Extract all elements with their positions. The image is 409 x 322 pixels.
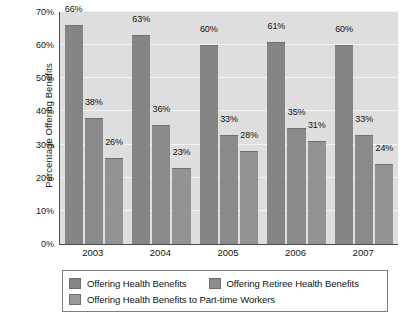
bar-value-label: 23%	[173, 147, 191, 157]
legend-swatch-icon-1	[209, 278, 221, 289]
x-axis-tick-label: 2003	[82, 247, 103, 258]
bar[interactable]	[105, 158, 123, 244]
legend-label-1: Offering Retiree Health Benefits	[227, 278, 359, 289]
bar-value-label: 33%	[220, 114, 238, 124]
y-axis-tick-label: 70%	[22, 7, 54, 17]
bar[interactable]	[308, 141, 326, 244]
bar-value-label: 60%	[335, 24, 353, 34]
bar-group: 60%33%24%	[330, 12, 398, 244]
bar[interactable]	[172, 168, 190, 244]
x-axis-tick-label: 2005	[217, 247, 238, 258]
bar-group: 60%33%28%	[195, 12, 263, 244]
bar-value-label: 33%	[355, 114, 373, 124]
y-axis-tick-label: 50%	[22, 73, 54, 83]
bar[interactable]	[287, 128, 305, 244]
bar-group: 66%38%26%	[60, 12, 128, 244]
plot-area: 66%38%26%63%36%23%60%33%28%61%35%31%60%3…	[59, 12, 398, 245]
bar[interactable]	[335, 45, 353, 244]
x-axis-tick-label: 2006	[285, 247, 306, 258]
bar-value-label: 61%	[268, 21, 286, 31]
bar-value-label: 28%	[240, 130, 258, 140]
legend-row-bottom: Offering Health Benefits to Part-time Wo…	[69, 291, 382, 307]
bar-value-label: 63%	[132, 14, 150, 24]
bar[interactable]	[220, 135, 238, 244]
bar-value-label: 38%	[85, 97, 103, 107]
bar[interactable]	[200, 45, 218, 244]
legend-label-2: Offering Health Benefits to Part-time Wo…	[87, 294, 275, 305]
bar-group: 61%35%31%	[263, 12, 331, 244]
y-axis-tick-label: 10%	[22, 206, 54, 216]
bar-value-label: 35%	[288, 107, 306, 117]
bar[interactable]	[85, 118, 103, 244]
y-axis-tick-label: 20%	[22, 173, 54, 183]
legend-swatch-icon-2	[69, 294, 81, 305]
y-axis-tick-label: 0%	[22, 239, 54, 249]
bar[interactable]	[355, 135, 373, 244]
bar[interactable]	[267, 42, 285, 244]
bar-group: 63%36%23%	[128, 12, 196, 244]
y-axis-tick-label: 40%	[22, 106, 54, 116]
bar-value-label: 31%	[308, 120, 326, 130]
y-axis-tick-labels: 0%10%20%30%40%50%60%70%	[22, 12, 54, 244]
bar-value-label: 36%	[153, 104, 171, 114]
bar-value-label: 60%	[200, 24, 218, 34]
legend-item-2[interactable]: Offering Health Benefits to Part-time Wo…	[69, 291, 275, 307]
bar[interactable]	[65, 25, 83, 244]
bar[interactable]	[240, 151, 258, 244]
legend-item-0[interactable]: Offering Health Benefits	[69, 275, 187, 291]
legend-label-0: Offering Health Benefits	[87, 278, 187, 289]
y-axis-tick-label: 60%	[22, 40, 54, 50]
bar-chart-figure: Percentage Offering Benefits 0%10%20%30%…	[0, 0, 409, 322]
chart-legend: Offering Health Benefits Offering Retire…	[62, 270, 388, 312]
y-axis-tick-label: 30%	[22, 140, 54, 150]
bar[interactable]	[132, 35, 150, 244]
bar-value-label: 66%	[65, 4, 83, 14]
bar-value-label: 24%	[376, 143, 394, 153]
bar[interactable]	[375, 164, 393, 244]
bar[interactable]	[152, 125, 170, 244]
bar-value-label: 26%	[105, 137, 123, 147]
x-axis-tick-label: 2007	[353, 247, 374, 258]
legend-swatch-icon-0	[69, 278, 81, 289]
x-axis-tick-labels: 20032004200520062007	[59, 247, 397, 261]
legend-row-top: Offering Health Benefits Offering Retire…	[69, 275, 382, 291]
legend-item-1[interactable]: Offering Retiree Health Benefits	[209, 275, 359, 291]
x-axis-tick-label: 2004	[150, 247, 171, 258]
